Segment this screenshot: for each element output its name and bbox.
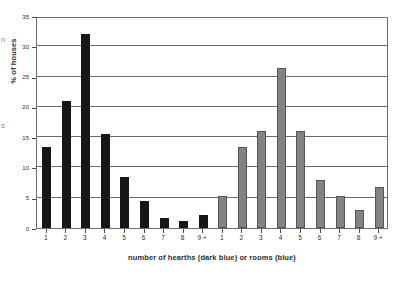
x-axis-tick-label: 5 [114,234,134,242]
y-axis-tick [32,17,36,18]
bar [355,210,364,228]
x-axis-tick [378,229,379,233]
x-axis-tick-label: 4 [270,234,290,242]
bar-slot [37,18,57,228]
bar [42,147,51,228]
bar-slot [252,18,272,228]
x-axis-tick-label: 9 + [192,234,212,242]
y-axis-tick [32,47,36,48]
x-axis-tick-label: 6 [310,234,330,242]
x-axis-tick [222,229,223,233]
x-axis-tick-label: 7 [329,234,349,242]
bar [316,180,325,228]
plot-area [36,17,388,229]
bar [179,221,188,228]
bar [199,215,208,228]
y-axis-tick-label: 5 [13,195,29,202]
y-axis-tick [32,199,36,200]
bar [277,68,286,229]
bar [81,34,90,228]
x-axis-tick [65,229,66,233]
x-axis-tick [241,229,242,233]
bar-slot [272,18,292,228]
x-axis-tick-label: 2 [55,234,75,242]
bar [140,201,149,228]
y-axis-tick-label: 10 [13,165,29,172]
x-axis-tick-label: 8 [173,234,193,242]
y-axis-tick [32,229,36,230]
bar [160,218,169,228]
x-axis-tick [124,229,125,233]
x-axis-tick [144,229,145,233]
x-axis-tick [339,229,340,233]
x-axis-tick [202,229,203,233]
gridline [37,15,387,16]
x-axis-tick-label: 3 [75,234,95,242]
bar [336,196,345,228]
bar-slot [76,18,96,228]
x-axis-tick [359,229,360,233]
bar-slot [311,18,331,228]
y-axis-tick [32,108,36,109]
bar [120,177,129,228]
x-axis-tick [300,229,301,233]
bar-slot [57,18,77,228]
bar-slot [291,18,311,228]
bar-slot [154,18,174,228]
y-axis-tick [32,78,36,79]
bar-slot [213,18,233,228]
x-axis-tick [183,229,184,233]
bar-slot [193,18,213,228]
bar-slot [233,18,253,228]
x-axis-tick-label: 2 [231,234,251,242]
x-axis-tick [163,229,164,233]
x-axis-tick-label: 7 [153,234,173,242]
bar [218,196,227,228]
x-axis-tick-label: 4 [94,234,114,242]
bar [101,134,110,228]
x-axis-tick [104,229,105,233]
x-axis-title: number of hearths (dark blue) or rooms (… [36,253,388,262]
y-axis-tick [32,138,36,139]
bar [62,101,71,228]
x-axis-tick-label: 9 + [368,234,388,242]
y-axis-tick-label: 15 [13,135,29,142]
y-axis-tick-label: 0 [13,226,29,233]
y-axis-title: % of houses [9,26,21,96]
bar-slot [369,18,389,228]
y-axis-tick-label: 25 [13,74,29,81]
bar-slot [174,18,194,228]
bar-slot [350,18,370,228]
x-axis-tick-label: 1 [212,234,232,242]
bar-slot [135,18,155,228]
bar [238,147,247,228]
y-axis-tick-label: 35 [13,14,29,21]
x-axis-tick [280,229,281,233]
bar-slot [330,18,350,228]
y-axis-tick-label: 20 [13,104,29,111]
x-axis-tick [261,229,262,233]
x-axis-tick-label: 1 [36,234,56,242]
x-axis-tick-label: 3 [251,234,271,242]
x-axis-tick-label: 6 [134,234,154,242]
y-axis-tick-label: 30 [13,44,29,51]
chart-figure: n s % of houses 05101520253035 123456789… [0,0,404,284]
x-axis-tick-label: 5 [290,234,310,242]
bar-slot [115,18,135,228]
x-axis-tick [46,229,47,233]
bar [257,131,266,228]
bar-group-container [37,18,387,228]
y-axis-tick [32,168,36,169]
x-axis-tick-label: 8 [349,234,369,242]
bar [296,131,305,228]
bar [375,187,384,228]
bar-slot [96,18,116,228]
x-axis-tick [85,229,86,233]
page-edge-fragment-bottom: s [1,120,10,131]
x-axis-tick [320,229,321,233]
